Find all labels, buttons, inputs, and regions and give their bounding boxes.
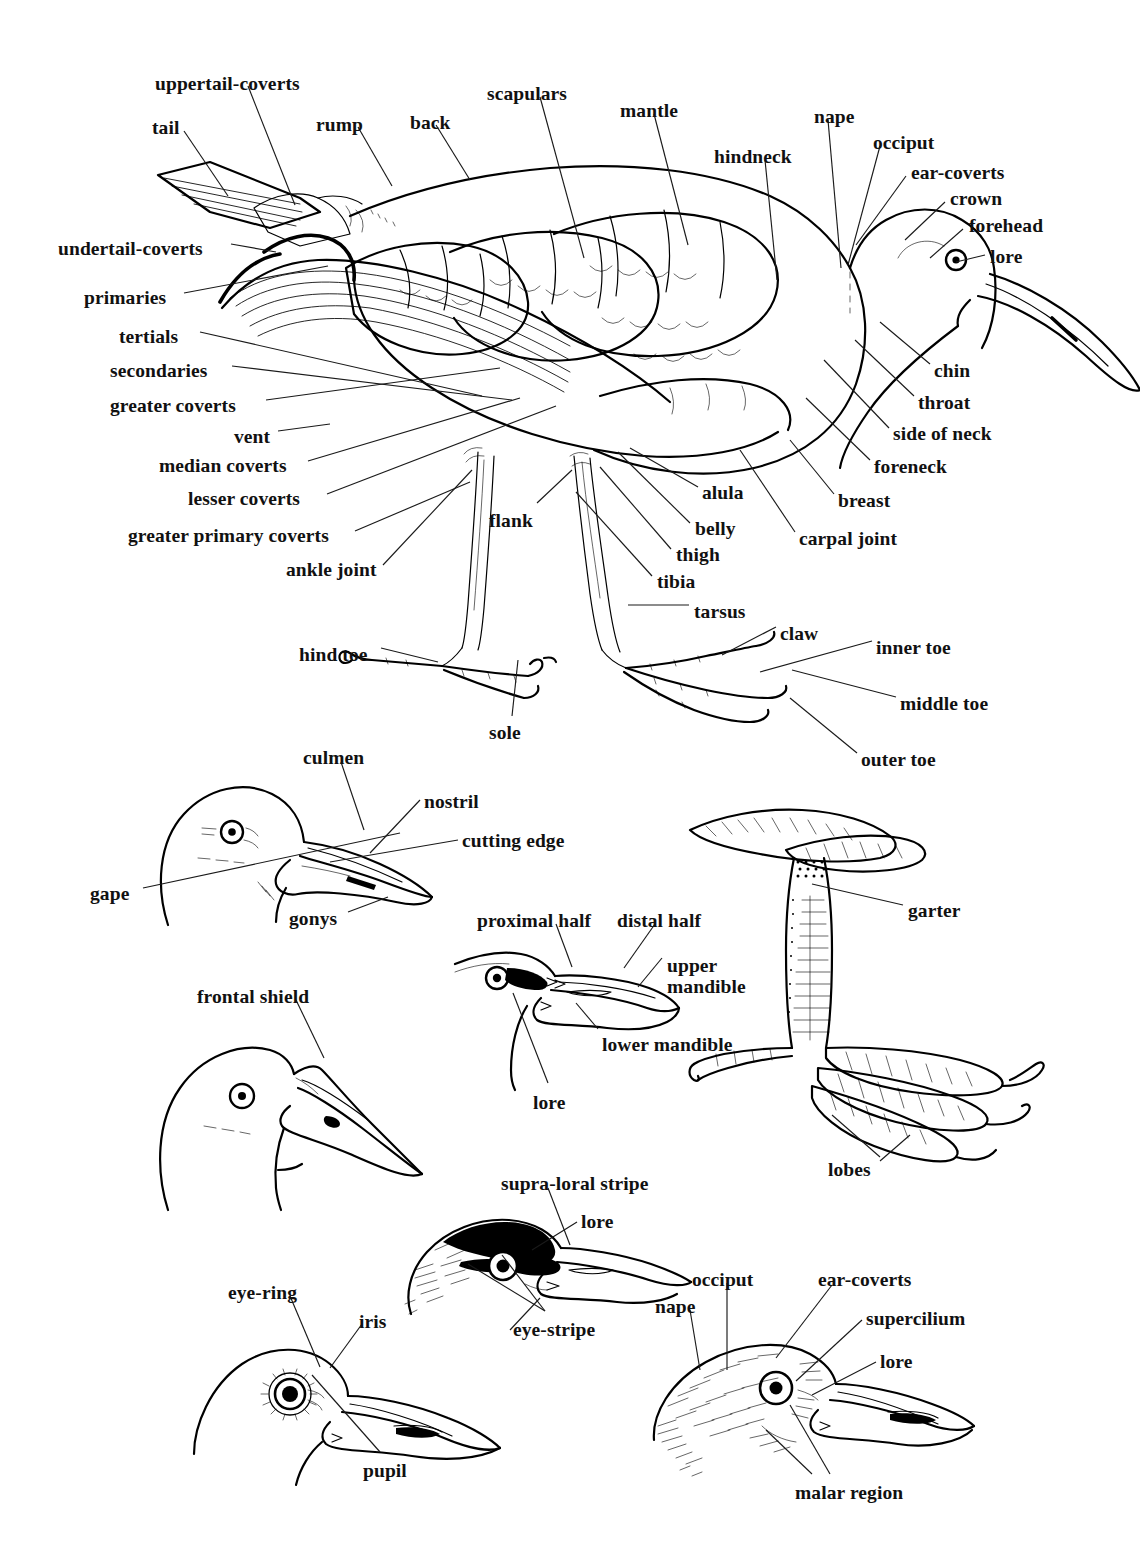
label-main-foreneck: foreneck bbox=[874, 457, 947, 477]
label-pattern-head-malar-region: malar region bbox=[795, 1483, 903, 1503]
label-main-thigh: thigh bbox=[676, 545, 720, 565]
label-main-median-coverts: median coverts bbox=[159, 456, 287, 476]
bird-topography-figure: uppertail-covertstailrumpbackscapularsma… bbox=[0, 0, 1140, 1568]
gull-head-artwork bbox=[140, 770, 470, 930]
label-main-greater-coverts: greater coverts bbox=[110, 396, 236, 416]
label-main-alula: alula bbox=[702, 483, 744, 503]
eye-head-artwork bbox=[190, 1330, 520, 1490]
label-main-undertail-coverts: undertail-coverts bbox=[58, 239, 203, 259]
label-striped-head-lore: lore bbox=[581, 1212, 614, 1232]
label-main-lesser-coverts: lesser coverts bbox=[188, 489, 300, 509]
label-main-mantle: mantle bbox=[620, 101, 678, 121]
label-mandible-head-upper-mandible: uppermandible bbox=[667, 955, 746, 997]
label-striped-head-supra-loral-stripe: supra-loral stripe bbox=[501, 1174, 649, 1194]
label-pattern-head-supercilium: supercilium bbox=[866, 1309, 965, 1329]
label-main-rump: rump bbox=[316, 115, 363, 135]
label-main-occiput: occiput bbox=[873, 133, 934, 153]
label-main-tibia: tibia bbox=[657, 572, 695, 592]
label-gull-head-culmen: culmen bbox=[303, 748, 364, 768]
label-mandible-head-lower-mandible: lower mandible bbox=[602, 1035, 733, 1055]
label-striped-head-eye-stripe: eye-stripe bbox=[513, 1320, 595, 1340]
label-main-back: back bbox=[410, 113, 451, 133]
label-mandible-head-lore: lore bbox=[533, 1093, 566, 1113]
label-main-hindneck: hindneck bbox=[714, 147, 792, 167]
shield-head-artwork bbox=[150, 1030, 450, 1210]
mandible-head-artwork bbox=[455, 930, 715, 1090]
label-main-chin: chin bbox=[934, 361, 970, 381]
label-main-breast: breast bbox=[838, 491, 890, 511]
label-main-belly: belly bbox=[695, 519, 736, 539]
label-eye-head-pupil: pupil bbox=[363, 1461, 407, 1481]
label-main-inner-toe: inner toe bbox=[876, 638, 951, 658]
label-eye-head-eye-ring: eye-ring bbox=[228, 1283, 297, 1303]
label-gull-head-gape: gape bbox=[90, 884, 129, 904]
label-main-scapulars: scapulars bbox=[487, 84, 567, 104]
label-mandible-head-proximal-half: proximal half bbox=[477, 911, 591, 931]
label-eye-head-iris: iris bbox=[359, 1312, 386, 1332]
lobed-foot-artwork bbox=[690, 800, 1110, 1190]
label-main-tertials: tertials bbox=[119, 327, 178, 347]
label-gull-head-gonys: gonys bbox=[289, 909, 337, 929]
label-main-crown: crown bbox=[950, 189, 1002, 209]
label-main-forehead: forehead bbox=[969, 216, 1043, 236]
label-main-secondaries: secondaries bbox=[110, 361, 208, 381]
label-main-carpal-joint: carpal joint bbox=[799, 529, 897, 549]
label-main-nape: nape bbox=[814, 107, 855, 127]
label-mandible-head-distal-half: distal half bbox=[617, 911, 701, 931]
label-main-tarsus: tarsus bbox=[694, 602, 746, 622]
label-main-flank: flank bbox=[489, 511, 533, 531]
label-main-uppertail-coverts: uppertail-coverts bbox=[155, 74, 300, 94]
label-lobed-foot-lobes: lobes bbox=[828, 1160, 871, 1180]
label-main-claw: claw bbox=[780, 624, 818, 644]
label-main-lore: lore bbox=[990, 247, 1023, 267]
label-shield-head-frontal-shield: frontal shield bbox=[197, 987, 309, 1007]
pattern-head-artwork bbox=[650, 1330, 980, 1490]
label-main-primaries: primaries bbox=[84, 288, 166, 308]
label-pattern-head-lore: lore bbox=[880, 1352, 913, 1372]
label-gull-head-nostril: nostril bbox=[424, 792, 479, 812]
label-main-outer-toe: outer toe bbox=[861, 750, 936, 770]
label-pattern-head-ear-coverts: ear-coverts bbox=[818, 1270, 911, 1290]
label-main-vent: vent bbox=[234, 427, 270, 447]
label-main-hind-toe: hind toe bbox=[299, 645, 368, 665]
label-main-ankle-joint: ankle joint bbox=[286, 560, 377, 580]
label-main-ear-coverts: ear-coverts bbox=[911, 163, 1004, 183]
label-pattern-head-occiput: occiput bbox=[692, 1270, 753, 1290]
label-main-sole: sole bbox=[489, 723, 521, 743]
label-pattern-head-nape: nape bbox=[655, 1297, 696, 1317]
label-main-greater-primary-coverts: greater primary coverts bbox=[128, 526, 329, 546]
label-lobed-foot-garter: garter bbox=[908, 901, 961, 921]
label-main-throat: throat bbox=[918, 393, 970, 413]
label-main-tail: tail bbox=[152, 118, 179, 138]
label-main-side-of-neck: side of neck bbox=[893, 424, 992, 444]
label-gull-head-cutting-edge: cutting edge bbox=[462, 831, 564, 851]
label-main-middle-toe: middle toe bbox=[900, 694, 988, 714]
